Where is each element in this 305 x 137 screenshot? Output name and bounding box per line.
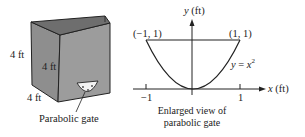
equation-label: y = x2 (231, 58, 255, 70)
tank-height-label: 4 ft (10, 50, 24, 61)
y-axis-label: y (ft) (184, 6, 205, 17)
y-axis-unit: (ft) (191, 5, 204, 16)
tank-depth-label: 4 ft (27, 93, 41, 104)
caption-line-2: parabolic gate (142, 117, 242, 129)
x-axis-arrow-icon (259, 87, 266, 92)
y-axis-arrow-icon (190, 19, 195, 26)
point-left-label: (−1, 1) (133, 29, 162, 40)
parabola-curve (146, 40, 240, 89)
tank-width-label: 4 ft (42, 62, 56, 73)
graph-caption: Enlarged view of parabolic gate (142, 105, 242, 129)
y-axis-var: y (184, 5, 189, 16)
x-axis-label: x (ft) (268, 84, 289, 95)
caption-line-1: Enlarged view of (142, 105, 242, 117)
point-right-label: (1, 1) (229, 29, 252, 40)
tick-label-one: 1 (238, 93, 243, 104)
x-axis-unit: (ft) (275, 83, 288, 94)
x-axis-var: x (268, 83, 273, 94)
tick-label-minus-one: −1 (141, 93, 152, 104)
gate-label: Parabolic gate (39, 114, 99, 125)
